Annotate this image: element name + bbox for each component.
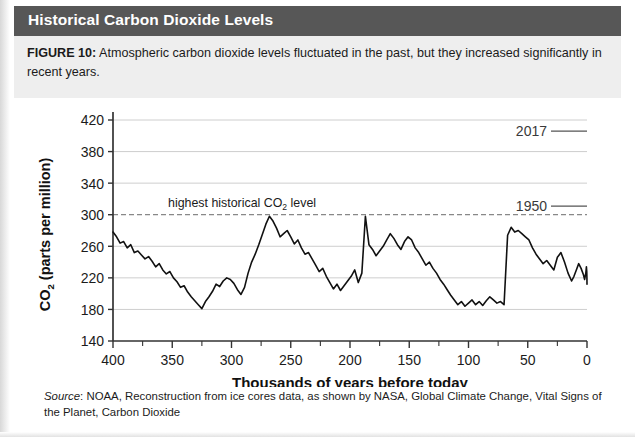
annotations-group: 20171950 <box>516 123 587 214</box>
annotation-label-1950: 1950 <box>516 198 547 214</box>
threshold-label-tail: level <box>287 196 316 210</box>
y-tick-label-220: 220 <box>81 270 105 286</box>
x-tick-label-200: 200 <box>338 352 362 368</box>
x-tick-label-300: 300 <box>220 352 244 368</box>
y-tick-label-420: 420 <box>81 112 105 128</box>
co2-line-chart: highest historical CO2 level 14018022026… <box>14 98 621 387</box>
source-label: Source <box>44 390 80 402</box>
x-tick-label-0: 0 <box>583 352 591 368</box>
x-tick-label-100: 100 <box>457 352 481 368</box>
y-tick-label-260: 260 <box>81 239 105 255</box>
figure-caption-band: FIGURE 10: Atmospheric carbon dioxide le… <box>14 36 621 98</box>
page-bottom-edge-shading <box>0 432 635 437</box>
x-tick-label-250: 250 <box>279 352 303 368</box>
figure-caption-body: Atmospheric carbon dioxide levels fluctu… <box>27 46 602 79</box>
chart-region: highest historical CO2 level 14018022026… <box>14 98 621 387</box>
y-tick-labels-group: 140180220260300340380420 <box>81 112 105 349</box>
co2-data-line <box>113 216 587 308</box>
page-left-edge-shading <box>0 0 10 437</box>
x-tick-label-400: 400 <box>101 352 125 368</box>
figure-source-band: Source: NOAA, Reconstruction from ice co… <box>14 387 621 431</box>
axes-group <box>108 112 587 348</box>
x-axis-title: Thousands of years before today <box>232 374 469 387</box>
figure-caption-label: FIGURE 10: <box>27 46 96 60</box>
y-axis-title: CO2 (parts per million) <box>37 158 56 312</box>
figure-caption: FIGURE 10: Atmospheric carbon dioxide le… <box>27 44 607 81</box>
y-tick-label-340: 340 <box>81 176 105 192</box>
y-tick-label-380: 380 <box>81 144 105 160</box>
y-axis-title-rest: (parts per million) <box>37 158 53 285</box>
x-tick-label-350: 350 <box>161 352 185 368</box>
figure-title-bar: Historical Carbon Dioxide Levels <box>14 6 621 36</box>
figure-source: Source: NOAA, Reconstruction from ice co… <box>44 389 604 420</box>
y-tick-label-180: 180 <box>81 302 105 318</box>
data-series-group <box>113 216 587 308</box>
source-body: : NOAA, Reconstruction from ice cores da… <box>44 390 602 418</box>
x-tick-label-50: 50 <box>520 352 536 368</box>
annotation-label-2017: 2017 <box>516 123 547 139</box>
threshold-label: highest historical CO2 level <box>168 196 316 213</box>
figure-card: Historical Carbon Dioxide Levels FIGURE … <box>14 6 621 431</box>
y-tick-label-300: 300 <box>81 207 105 223</box>
x-tick-label-150: 150 <box>398 352 422 368</box>
y-tick-label-140: 140 <box>81 333 105 349</box>
figure-title: Historical Carbon Dioxide Levels <box>28 11 273 29</box>
x-tick-labels-group: 400350300250200150100500 <box>101 352 591 368</box>
